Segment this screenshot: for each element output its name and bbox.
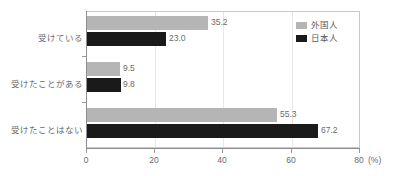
bar-japanese-0 (87, 32, 166, 46)
bar-value-foreign-0: 35.2 (211, 18, 228, 27)
bar-value-foreign-2: 55.3 (280, 110, 297, 119)
legend: 外国人 日本人 (296, 17, 352, 49)
bar-foreign-1 (87, 62, 120, 76)
bar-foreign-0 (87, 16, 208, 30)
x-axis-label-20: 20 (149, 155, 158, 165)
y-axis-tick (82, 102, 86, 103)
x-axis-label-0: 0 (84, 155, 89, 165)
category-label-0: 受けている (38, 33, 83, 43)
bar-value-japanese-1: 9.8 (123, 80, 135, 89)
legend-item-japanese: 日本人 (296, 33, 352, 44)
x-axis-tick-0 (86, 149, 87, 153)
x-axis-tick-40 (222, 149, 223, 153)
bar-value-foreign-1: 9.5 (123, 64, 135, 73)
y-axis-tick (82, 56, 86, 57)
x-axis-label-40: 40 (217, 155, 226, 165)
bar-japanese-2 (87, 124, 318, 138)
bar-foreign-2 (87, 108, 277, 122)
bar-value-japanese-0: 23.0 (169, 34, 186, 43)
x-axis-line (86, 148, 360, 149)
legend-swatch-japanese-icon (296, 35, 307, 42)
legend-item-foreign: 外国人 (296, 20, 352, 31)
x-axis-label-80: 80 (354, 155, 363, 165)
x-axis-label-60: 60 (286, 155, 295, 165)
category-label-1: 受けたことがある (11, 79, 83, 89)
bar-chart: 受けている 35.2 23.0 受けたことがある 9.5 9.8 受けたことはな… (0, 0, 401, 176)
x-axis-tick-80 (359, 149, 360, 153)
bar-value-japanese-2: 67.2 (321, 126, 338, 135)
bar-japanese-1 (87, 78, 121, 92)
x-axis-unit-label: (%) (368, 155, 381, 165)
legend-label-foreign: 外国人 (311, 21, 338, 30)
x-axis-tick-60 (291, 149, 292, 153)
legend-swatch-foreign-icon (296, 22, 307, 29)
category-label-2: 受けたことはない (11, 125, 83, 135)
legend-label-japanese: 日本人 (311, 34, 338, 43)
x-axis-tick-20 (154, 149, 155, 153)
